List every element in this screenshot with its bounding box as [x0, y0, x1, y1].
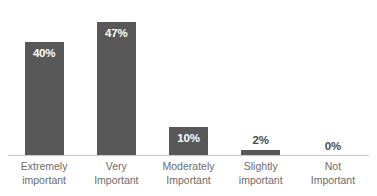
- x-axis-label-slightly-important: Slightly important: [225, 160, 297, 196]
- x-axis-label-extremely-important: Extremely important: [8, 160, 80, 196]
- bar-column-moderately-important: 10%: [152, 0, 224, 156]
- x-axis-label-very-important: Very Important: [80, 160, 152, 196]
- bar-moderately-important[interactable]: 10%: [169, 127, 208, 156]
- bar-stack: 10%: [169, 0, 208, 156]
- x-axis-label-line2: Important: [297, 174, 369, 188]
- bar-chart: 40% 47% 10%: [0, 0, 377, 196]
- bar-columns: 40% 47% 10%: [8, 0, 369, 156]
- bar-value-label-moderately-important: 10%: [177, 133, 199, 145]
- bar-stack: 0%: [313, 0, 352, 156]
- bar-stack: 40%: [25, 0, 64, 156]
- x-axis-label-line2: Important: [152, 174, 224, 188]
- bar-very-important[interactable]: 47%: [97, 22, 136, 156]
- bar-value-label-very-important: 47%: [105, 28, 127, 40]
- x-axis-label-line1: Extremely: [8, 160, 80, 174]
- bar-column-slightly-important: 2%: [225, 0, 297, 156]
- x-axis-label-line1: Very: [80, 160, 152, 174]
- bar-column-extremely-important: 40%: [8, 0, 80, 156]
- x-axis-label-line1: Moderately: [152, 160, 224, 174]
- bar-value-label-extremely-important: 40%: [33, 48, 55, 60]
- x-axis-label-line2: important: [8, 174, 80, 188]
- x-axis-label-line1: Not: [297, 160, 369, 174]
- bar-column-very-important: 47%: [80, 0, 152, 156]
- bar-column-not-important: 0%: [297, 0, 369, 156]
- x-axis-label-line2: Important: [80, 174, 152, 188]
- x-axis-label-moderately-important: Moderately Important: [152, 160, 224, 196]
- bar-extremely-important[interactable]: 40%: [25, 42, 64, 156]
- x-axis-label-not-important: Not Important: [297, 160, 369, 196]
- x-axis-baseline: [8, 155, 369, 156]
- bar-value-label-slightly-important: 2%: [253, 135, 269, 147]
- plot-area: 40% 47% 10%: [0, 0, 377, 156]
- x-axis-labels: Extremely important Very Important Moder…: [8, 160, 369, 196]
- bar-value-label-not-important: 0%: [325, 141, 341, 153]
- x-axis-label-line2: important: [225, 174, 297, 188]
- bar-stack: 2%: [241, 0, 280, 156]
- bar-stack: 47%: [97, 0, 136, 156]
- x-axis-label-line1: Slightly: [225, 160, 297, 174]
